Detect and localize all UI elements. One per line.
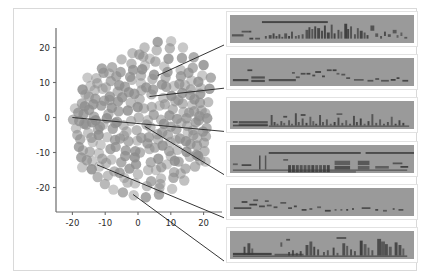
pianoroll-note: [288, 252, 290, 256]
pianoroll-thumbnail-5[interactable]: [226, 141, 418, 177]
scatter-point: [199, 138, 209, 148]
scatter-point: [198, 60, 208, 70]
pianoroll-thumbnail-1[interactable]: [226, 11, 418, 47]
pianoroll-thumbnail-4[interactable]: [226, 184, 418, 220]
pianoroll-note: [364, 124, 366, 126]
scatter-point: [166, 121, 176, 131]
scatter-point: [143, 115, 153, 125]
scatter-point: [160, 72, 170, 82]
pianoroll-note: [249, 38, 253, 40]
pianoroll-note: [259, 155, 260, 169]
pianoroll-note: [375, 209, 378, 211]
scatter-point: [154, 183, 164, 193]
pianoroll-note: [387, 122, 389, 126]
scatter-point: [193, 77, 203, 87]
pianoroll-note: [295, 114, 297, 126]
thumbnail-column: [226, 11, 418, 269]
pianoroll-note: [391, 79, 396, 81]
pianoroll-thumbnail-6[interactable]: [226, 227, 418, 263]
scatter-point: [92, 78, 102, 88]
pianoroll-note: [393, 162, 403, 164]
pianoroll-note: [265, 36, 267, 39]
pianoroll-note: [354, 34, 356, 38]
scatter-point: [175, 133, 185, 143]
scatter-point: [141, 192, 151, 202]
pianoroll-note: [357, 28, 359, 39]
pianoroll-note: [274, 122, 276, 126]
pianoroll-canvas: [230, 188, 414, 216]
pianoroll-note: [337, 30, 339, 39]
scatter-point: [189, 106, 199, 116]
pianoroll-note: [375, 78, 379, 80]
pianoroll-note: [315, 71, 321, 73]
pianoroll-note: [286, 239, 290, 241]
pianoroll-note: [340, 32, 342, 39]
pianoroll-note: [364, 244, 367, 255]
pianoroll-note: [375, 166, 389, 169]
scatter-point: [113, 106, 123, 116]
pianoroll-note: [325, 210, 331, 212]
pianoroll-note: [311, 29, 313, 39]
scatter-point: [93, 124, 103, 134]
pianoroll-note: [233, 125, 268, 127]
scatter-point: [189, 94, 199, 104]
pianoroll-note: [265, 200, 269, 202]
pianoroll-note: [375, 123, 377, 126]
pianoroll-note: [377, 239, 381, 256]
pianoroll-note: [397, 35, 399, 38]
pianoroll-note: [304, 165, 307, 172]
scatter-point: [165, 137, 175, 147]
scatter-point: [136, 133, 146, 143]
pianoroll-note: [309, 117, 311, 126]
pianoroll-note: [346, 209, 348, 211]
scatter-point: [106, 154, 116, 164]
pianoroll-thumbnail-3[interactable]: [226, 97, 418, 133]
pianoroll-note: [300, 165, 303, 172]
pianoroll-note: [323, 165, 326, 172]
pianoroll-note: [402, 123, 404, 126]
pianoroll-note: [337, 114, 343, 116]
scatter-point: [95, 140, 105, 150]
pianoroll-note: [391, 117, 393, 126]
pianoroll-note: [251, 77, 265, 79]
pianoroll-note: [368, 122, 370, 126]
pianoroll-note: [239, 122, 268, 124]
pianoroll-note: [322, 122, 324, 126]
pianoroll-note: [292, 250, 294, 255]
scatter-point: [104, 95, 114, 105]
scatter-point: [124, 163, 134, 173]
scatter-point: [145, 54, 155, 64]
pianoroll-note: [283, 116, 287, 118]
pianoroll-note: [371, 250, 373, 255]
pianoroll-note: [269, 126, 409, 127]
pianoroll-canvas: [230, 231, 414, 259]
figure-root: -20-1001020-20-1001020: [0, 0, 426, 280]
scatter-point: [166, 151, 176, 161]
scatter-point: [147, 74, 157, 84]
pianoroll-note: [360, 241, 363, 256]
pianoroll-note: [251, 249, 253, 255]
pianoroll-note: [384, 32, 386, 36]
pianoroll-note: [381, 242, 385, 256]
scatter-point: [156, 173, 166, 183]
pianoroll-note: [400, 33, 402, 37]
scatter-point: [141, 82, 151, 92]
pianoroll-note: [360, 119, 362, 126]
pianoroll-note: [393, 30, 397, 34]
scatter-point: [180, 80, 190, 90]
pianoroll-note: [242, 164, 252, 166]
scatter-point: [112, 86, 122, 96]
pianoroll-note: [255, 38, 260, 40]
pianoroll-note: [340, 209, 342, 211]
pianoroll-note: [346, 77, 350, 79]
pianoroll-note: [368, 248, 370, 256]
pianoroll-note: [335, 166, 350, 170]
x-axis-tick-label: -20: [65, 218, 79, 228]
pianoroll-note: [397, 77, 400, 79]
pianoroll-note: [327, 70, 332, 72]
scatter-point: [87, 156, 97, 166]
scatter-plot: -20-1001020-20-1001020: [18, 20, 223, 252]
pianoroll-thumbnail-2[interactable]: [226, 54, 418, 90]
pianoroll-note: [276, 36, 278, 39]
pianoroll-note: [341, 123, 343, 126]
